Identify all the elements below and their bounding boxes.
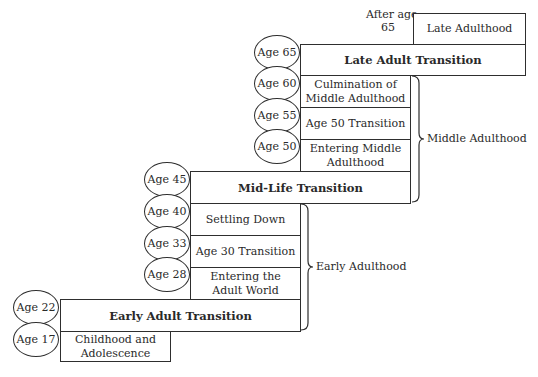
age-22-label: Age 22 (17, 301, 56, 314)
settling-down-box: Settling Down (190, 203, 301, 236)
after-age-line2: 65 (366, 21, 410, 34)
childhood-line2: Adolescence (75, 347, 156, 361)
after-age-line1: After age (366, 8, 410, 21)
entering-middle-line2: Adulthood (310, 156, 401, 170)
age-60-ellipse: Age 60 (254, 66, 300, 101)
age-45-label: Age 45 (148, 173, 187, 186)
middle-adulthood-brace (411, 75, 427, 205)
culmination-line2: Middle Adulthood (306, 92, 406, 106)
age-40-ellipse: Age 40 (144, 194, 190, 229)
age-55-label: Age 55 (258, 109, 297, 122)
culmination-middle-box: Culmination of Middle Adulthood (300, 75, 411, 108)
early-adult-transition-box: Early Adult Transition (60, 299, 301, 332)
after-age-65-label: After age 65 (366, 8, 410, 34)
age-50-ellipse: Age 50 (254, 129, 300, 164)
midlife-transition-box: Mid-Life Transition (190, 171, 411, 204)
age-50-transition-label: Age 50 Transition (306, 117, 406, 131)
age-60-label: Age 60 (258, 77, 297, 90)
early-adulthood-brace (300, 203, 316, 333)
early-adulthood-label: Early Adulthood (316, 260, 406, 274)
age-28-label: Age 28 (148, 268, 187, 281)
late-adult-transition-box: Late Adult Transition (300, 44, 526, 76)
entering-adult-world-box: Entering the Adult World (190, 267, 301, 300)
age-30-transition-label: Age 30 Transition (196, 245, 296, 259)
early-adult-transition-label: Early Adult Transition (109, 309, 252, 323)
age-40-label: Age 40 (148, 205, 187, 218)
middle-adulthood-label: Middle Adulthood (427, 132, 527, 146)
age-50-transition-box: Age 50 Transition (300, 107, 411, 140)
age-33-label: Age 33 (148, 237, 187, 250)
age-17-label: Age 17 (17, 333, 56, 346)
entering-middle-line1: Entering Middle (310, 142, 401, 156)
age-17-ellipse: Age 17 (13, 322, 59, 357)
late-adulthood-label: Late Adulthood (427, 22, 513, 36)
age-22-ellipse: Age 22 (13, 290, 59, 325)
age-55-ellipse: Age 55 (254, 98, 300, 133)
age-33-ellipse: Age 33 (144, 226, 190, 261)
culmination-line1: Culmination of (306, 78, 406, 92)
childhood-box: Childhood and Adolescence (60, 331, 171, 362)
entering-middle-box: Entering Middle Adulthood (300, 139, 411, 172)
age-30-transition-box: Age 30 Transition (190, 235, 301, 268)
age-28-ellipse: Age 28 (144, 257, 190, 292)
age-65-label: Age 65 (258, 46, 297, 59)
age-45-ellipse: Age 45 (144, 162, 190, 197)
late-adult-transition-label: Late Adult Transition (344, 53, 481, 67)
entering-adult-world-line1: Entering the (210, 270, 280, 284)
late-adulthood-box: Late Adulthood (413, 13, 526, 45)
midlife-transition-label: Mid-Life Transition (238, 181, 363, 195)
entering-adult-world-line2: Adult World (210, 284, 280, 298)
settling-down-label: Settling Down (206, 213, 286, 227)
childhood-line1: Childhood and (75, 333, 156, 347)
age-65-ellipse: Age 65 (254, 35, 300, 70)
age-50-label: Age 50 (258, 140, 297, 153)
